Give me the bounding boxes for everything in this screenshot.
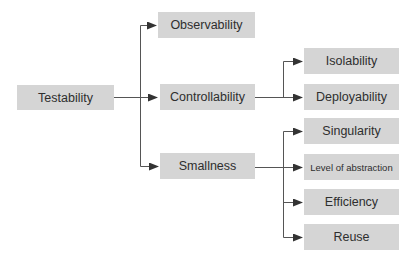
node-deployability: Deployability <box>304 84 399 110</box>
node-reuse: Reuse <box>304 224 399 250</box>
node-isolability: Isolability <box>304 48 399 74</box>
diagram-canvas: Testability Observability Controllabilit… <box>0 0 413 257</box>
node-testability: Testability <box>17 85 114 110</box>
node-smallness: Smallness <box>160 153 255 179</box>
node-efficiency: Efficiency <box>304 189 399 215</box>
node-controllability: Controllability <box>160 84 255 110</box>
node-singularity: Singularity <box>304 118 399 144</box>
node-level-of-abstraction: Level of abstraction <box>304 154 399 180</box>
node-observability: Observability <box>158 12 255 38</box>
